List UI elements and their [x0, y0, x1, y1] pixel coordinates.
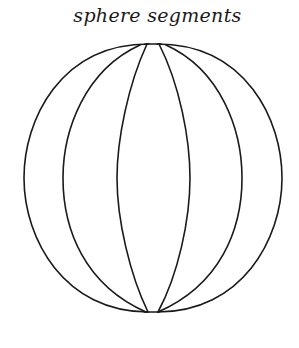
meridian-right-2 [158, 45, 242, 312]
meridian-left-3 [117, 44, 148, 312]
meridian-left-2 [63, 45, 146, 312]
meridian-right-3 [158, 44, 190, 312]
outer-meridian-left [24, 44, 149, 312]
sphere-segments-diagram [0, 0, 299, 348]
